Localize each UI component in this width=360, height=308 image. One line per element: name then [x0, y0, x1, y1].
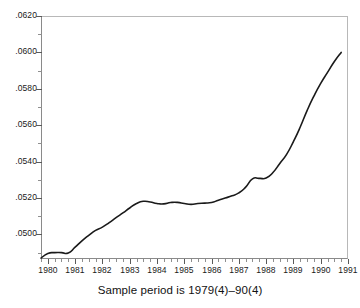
- series-line-path: [41, 52, 341, 258]
- chart-figure: .0620.0600.0580.0560.0540.0520.0500 1980…: [0, 0, 360, 308]
- data-series-layer: [0, 0, 360, 308]
- chart-caption: Sample period is 1979(4)–90(4): [0, 283, 360, 297]
